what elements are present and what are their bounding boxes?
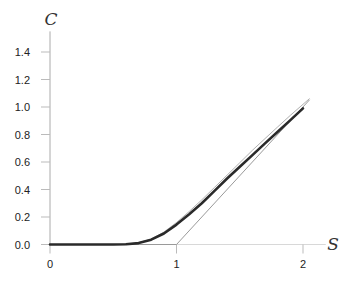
y-tick-label: 1.2 (15, 74, 30, 86)
x-axis-label: S (327, 234, 339, 254)
option-price-chart: 0.00.20.40.60.81.01.21.4012CS (0, 0, 346, 285)
y-tick-label: 0.6 (15, 156, 30, 168)
y-tick-label: 1.4 (15, 46, 30, 58)
x-tick-label: 1 (173, 258, 179, 270)
x-tick-label: 2 (300, 258, 306, 270)
y-tick-label: 0.2 (15, 211, 30, 223)
series-line-2 (50, 108, 303, 244)
y-tick-label: 0.0 (15, 239, 30, 251)
series-group (50, 99, 309, 245)
y-axis-label: C (44, 9, 57, 29)
labels: 0.00.20.40.60.81.01.21.4012CS (15, 9, 339, 270)
y-tick-label: 0.4 (15, 184, 30, 196)
x-tick-label: 0 (47, 258, 53, 270)
y-tick-label: 1.0 (15, 101, 30, 113)
y-tick-label: 0.8 (15, 129, 30, 141)
